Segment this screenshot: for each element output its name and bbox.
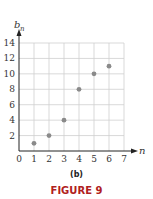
x-tick-label: 5 [91,154,97,164]
y-tick-label: 12 [4,53,15,63]
x-tick-label: 1 [31,154,37,164]
y-tick-label: 6 [9,100,15,110]
panel-caption: (b) [0,170,153,179]
y-tick-label: 2 [9,131,15,141]
tick-labels: 012345672468101214 [4,38,128,164]
x-tick-label: 7 [121,154,127,164]
x-tick-label: 3 [61,154,67,164]
x-axis-label: n [139,145,145,156]
x-tick-label: 6 [106,154,112,164]
data-point [32,141,37,146]
figure-caption: FIGURE 9 [0,185,153,196]
data-point [107,64,112,69]
data-point [62,118,67,123]
data-point [77,87,82,92]
x-tick-label: 0 [16,154,22,164]
axes [17,29,139,154]
y-tick-label: 10 [4,69,16,79]
grid [19,43,124,151]
y-tick-label: 8 [9,84,15,94]
y-axis-label-subscript: n [20,25,25,33]
x-tick-label: 2 [46,154,52,164]
x-tick-label: 4 [76,154,82,164]
data-point [47,133,52,138]
data-point [92,71,97,76]
x-axis-arrow-icon [131,149,138,154]
y-tick-label: 4 [9,115,15,125]
scatter-chart: 012345672468101214 n b n [0,0,153,170]
y-tick-label: 14 [4,38,16,48]
